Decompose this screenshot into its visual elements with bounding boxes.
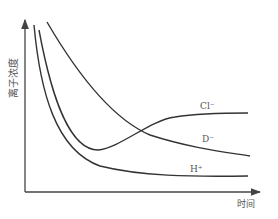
y-axis-label: 离子浓度: [7, 58, 19, 98]
label-cl: Cl⁻: [200, 101, 215, 111]
ion-concentration-chart: 离子浓度 时间 Cl⁻ D⁻ H⁺: [0, 0, 278, 219]
label-h: H⁺: [190, 164, 203, 174]
curve-d-minus: [47, 22, 250, 156]
x-axis-label: 时间: [237, 198, 255, 209]
curve-h-plus: [34, 25, 248, 176]
label-d: D⁻: [202, 134, 214, 144]
